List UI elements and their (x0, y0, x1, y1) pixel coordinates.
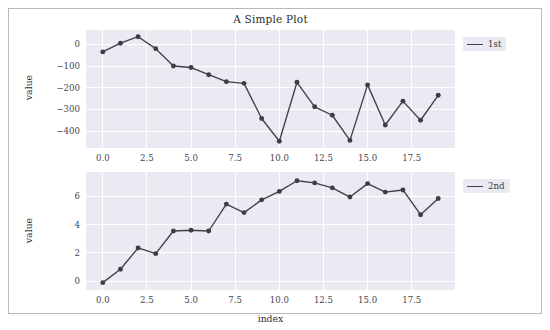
legend-top: 1st (463, 37, 506, 51)
figure-canvas: A Simple Plot value 0−100−200−300−400 0.… (0, 0, 550, 330)
x-tick-label: 12.5 (314, 153, 333, 163)
data-point (206, 229, 211, 234)
series-plot-bottom (86, 172, 455, 290)
y-axis-label-bottom: value (23, 201, 34, 261)
legend-label-1st: 1st (488, 39, 501, 49)
x-tick-label: 2.5 (140, 153, 154, 163)
data-point (206, 72, 211, 77)
data-point (312, 180, 317, 185)
data-point (171, 229, 176, 234)
y-tick-label: 2 (38, 248, 80, 258)
data-point (418, 212, 423, 217)
data-point (383, 123, 388, 128)
x-tick-label: 17.5 (402, 295, 421, 305)
y-tick-label: 0 (38, 39, 80, 49)
legend-line-swatch-1st (467, 44, 483, 45)
data-point (436, 196, 441, 201)
data-point (242, 81, 247, 86)
data-point (277, 189, 282, 194)
data-point (330, 113, 335, 118)
data-point (365, 181, 370, 186)
x-axis-label-bottom: index (86, 313, 455, 324)
x-tick-label: 5.0 (184, 295, 198, 305)
data-point (189, 228, 194, 233)
legend-bottom: 2nd (463, 179, 510, 193)
data-point (136, 34, 141, 39)
page-title: A Simple Plot (86, 13, 455, 25)
data-point (153, 251, 158, 256)
data-point (224, 202, 229, 207)
data-point (348, 138, 353, 143)
data-point (189, 65, 194, 70)
series-line-1st (103, 37, 438, 142)
x-tick-label: 12.5 (314, 295, 333, 305)
x-tick-label: 5.0 (184, 153, 198, 163)
x-tick-label: 0.0 (96, 295, 110, 305)
data-point (348, 195, 353, 200)
data-point (118, 41, 123, 46)
series-plot-top (86, 30, 455, 148)
plot-area-top (86, 30, 455, 148)
data-point (100, 280, 105, 285)
x-tick-label: 0.0 (96, 153, 110, 163)
data-point (224, 79, 229, 84)
y-tick-label: −400 (38, 126, 80, 136)
legend-line-swatch-2nd (467, 186, 483, 187)
x-tick-label: 17.5 (402, 153, 421, 163)
data-point (295, 80, 300, 85)
data-point (365, 82, 370, 87)
y-axis-label-top: value (23, 58, 34, 118)
data-point (400, 188, 405, 193)
x-tick-label: 7.5 (228, 153, 242, 163)
legend-label-2nd: 2nd (488, 181, 505, 191)
data-point (259, 116, 264, 121)
data-point (153, 46, 158, 51)
chart-panel-top: A Simple Plot value 0−100−200−300−400 0.… (0, 0, 550, 165)
x-tick-label: 10.0 (270, 153, 289, 163)
y-tick-label: 0 (38, 276, 80, 286)
data-point (242, 210, 247, 215)
data-point (118, 267, 123, 272)
plot-area-bottom (86, 172, 455, 290)
x-tick-label: 2.5 (140, 295, 154, 305)
chart-panel-bottom: value 0246 0.02.55.07.510.012.515.017.5 … (0, 165, 550, 330)
x-tick-label: 15.0 (358, 295, 377, 305)
data-point (259, 197, 264, 202)
data-point (312, 104, 317, 109)
x-tick-label: 7.5 (228, 295, 242, 305)
data-point (295, 178, 300, 183)
data-point (400, 99, 405, 104)
y-tick-label: 4 (38, 220, 80, 230)
y-tick-label: −100 (38, 61, 80, 71)
y-tick-label: −200 (38, 83, 80, 93)
data-point (277, 139, 282, 144)
data-point (330, 185, 335, 190)
data-point (171, 64, 176, 69)
x-tick-label: 15.0 (358, 153, 377, 163)
y-tick-label: 6 (38, 191, 80, 201)
data-point (136, 246, 141, 251)
y-tick-label: −300 (38, 104, 80, 114)
data-point (436, 93, 441, 98)
data-point (418, 118, 423, 123)
x-tick-label: 10.0 (270, 295, 289, 305)
data-point (100, 49, 105, 54)
data-point (383, 190, 388, 195)
